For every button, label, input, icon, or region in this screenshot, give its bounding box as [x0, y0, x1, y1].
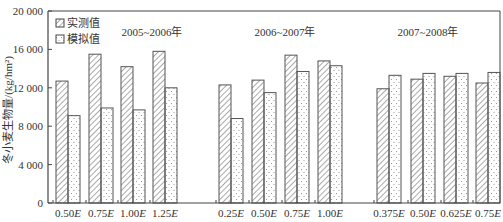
bar-simulated [231, 119, 243, 203]
x-tick-label: 0.625E [440, 207, 472, 219]
group-label: 2006~2007年 [255, 25, 316, 38]
x-tick-label: 1.25E [152, 207, 178, 219]
bar-measured [377, 89, 389, 203]
x-tick-label: 1.00E [317, 207, 343, 219]
legend-label: 模拟值 [67, 32, 100, 45]
bar-measured [411, 79, 423, 203]
bar-simulated [68, 116, 80, 203]
legend-swatch-simulated [56, 35, 64, 43]
bar-measured [252, 80, 264, 203]
legend-swatch-measured [56, 19, 64, 27]
y-tick-label: 20 000 [13, 5, 44, 17]
y-tick-label: 12 000 [13, 82, 44, 94]
legend-label: 实测值 [67, 16, 100, 29]
x-tick-label: 0.75E [88, 207, 114, 219]
bar-simulated [330, 66, 342, 203]
bar-simulated [101, 108, 113, 203]
x-tick-label: 0.50E [55, 207, 81, 219]
x-tick-label: 1.00E [120, 207, 146, 219]
bar-simulated [297, 71, 309, 203]
bar-measured [285, 55, 297, 203]
legend: 实测值模拟值 [56, 16, 100, 45]
bar-simulated [456, 73, 468, 203]
x-tick-label: 0.50E [410, 207, 436, 219]
bar-measured [444, 76, 456, 203]
x-tick-label: 0.75E [475, 207, 501, 219]
bar-measured [89, 54, 101, 203]
x-tick-label: 0.25E [218, 207, 244, 219]
bar-measured [476, 83, 488, 203]
y-axis-label: 冬小麦生物量/(kg/hm²) [1, 56, 15, 164]
bars [56, 51, 500, 203]
chart-canvas: 04 0008 00012 00016 00020 000冬小麦生物量/(kg/… [0, 0, 503, 222]
bar-simulated [264, 93, 276, 203]
x-tick-label: 0.375E [373, 207, 405, 219]
bar-measured [121, 67, 133, 203]
y-tick-label: 8 000 [18, 120, 43, 132]
y-tick-label: 4 000 [18, 159, 43, 171]
x-tick-label: 0.50E [251, 207, 277, 219]
bar-simulated [389, 75, 401, 203]
y-tick-label: 16 000 [13, 43, 44, 55]
bar-simulated [165, 88, 177, 203]
bar-simulated [423, 73, 435, 203]
bar-measured [56, 81, 68, 203]
bar-simulated [133, 110, 145, 203]
bar-measured [219, 85, 231, 203]
group-labels: 2005~2006年2006~2007年2007~2008年 [122, 25, 459, 38]
bar-simulated [488, 72, 500, 203]
bar-measured [318, 61, 330, 203]
group-label: 2007~2008年 [398, 25, 459, 38]
group-label: 2005~2006年 [122, 25, 183, 38]
bar-measured [153, 51, 165, 203]
biomass-bar-chart: 04 0008 00012 00016 00020 000冬小麦生物量/(kg/… [0, 0, 503, 222]
x-axis: 0.50E0.75E1.00E1.25E0.25E0.50E0.75E1.00E… [48, 200, 501, 219]
y-tick-label: 0 [38, 197, 44, 209]
x-tick-label: 0.75E [284, 207, 310, 219]
